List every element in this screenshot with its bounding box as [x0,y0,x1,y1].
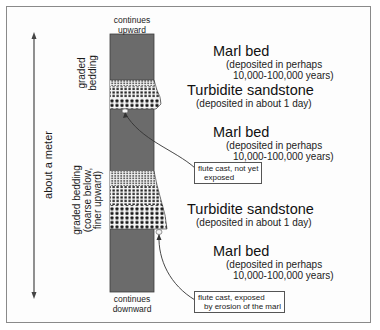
scale-arrow-icon [32,32,37,299]
layer-label-marl-1: Marl bed (deposited in perhaps 10,000-10… [213,44,334,81]
layer-label-turbidite-2: Turbidite sandstone (deposited in about … [187,202,314,228]
upper-graded-bedding-label: graded bedding [77,43,98,103]
upper-turbidite-bed [110,80,161,113]
column-top-label: continues upward [110,16,154,35]
column-bottom-label: continues downward [105,295,159,314]
callout-flute-cast-exposed: flute cast, exposed by erosion of the ma… [194,291,285,313]
scale-label: about a meter [42,125,54,205]
lower-graded-bedding-label: graded bedding (coarse below, finer upwa… [72,162,104,238]
layer-label-marl-2: Marl bed (deposited in perhaps 10,000-10… [213,125,334,162]
lower-turbidite-bed [110,171,167,235]
layer-label-marl-3: Marl bed (deposited in perhaps 10,000-10… [213,244,334,281]
marl-column [110,34,154,292]
callout-leader-2 [159,235,195,300]
callout-flute-cast-unexposed: flute cast, not yet exposed [194,162,262,184]
layer-label-turbidite-1: Turbidite sandstone (deposited in about … [187,83,314,109]
